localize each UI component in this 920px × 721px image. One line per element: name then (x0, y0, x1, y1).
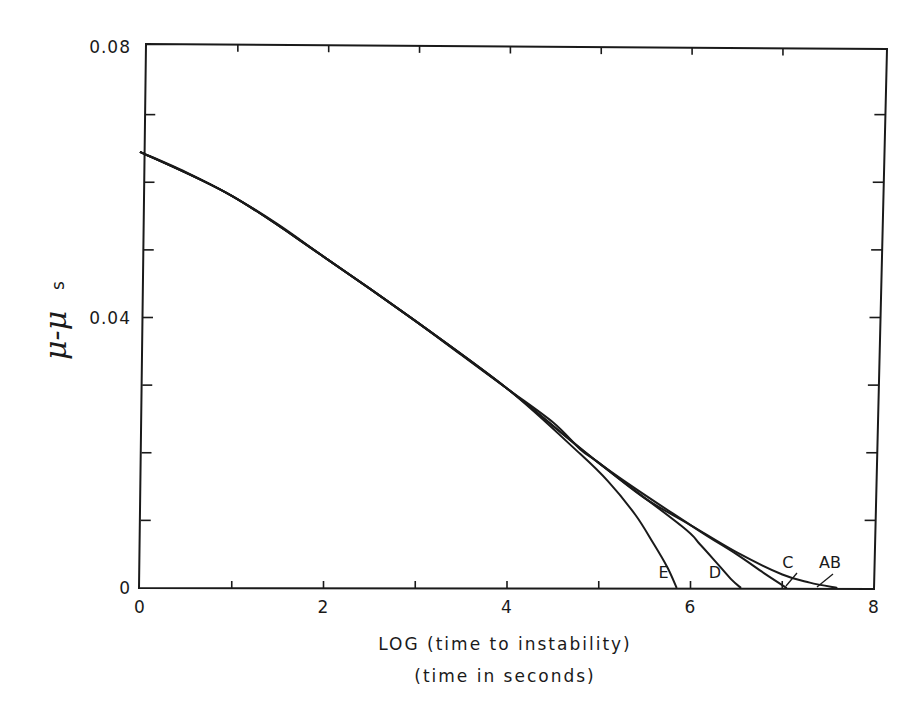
axis-ticks (141, 45, 886, 588)
x-axis-title: LOG (time to instability) (378, 634, 632, 654)
x-tick-label: 2 (318, 597, 330, 617)
curve-label-ab: AB (819, 553, 841, 572)
y-axis-title-main: μ-μ (38, 311, 73, 360)
y-tick-label: 0.04 (89, 308, 131, 328)
data-curves (140, 152, 837, 588)
plot-frame (139, 44, 887, 589)
curve-label-d: D (709, 563, 721, 582)
y-axis-title-subscript: s (48, 281, 68, 290)
x-tick-label: 4 (501, 597, 513, 617)
x-tick-label: 6 (685, 597, 697, 617)
axis-tick-labels: 0246800.040.08 (89, 37, 880, 617)
curve-d (140, 152, 741, 588)
curve-e (140, 152, 677, 588)
y-tick-label: 0 (119, 578, 131, 598)
curve-ab (140, 152, 837, 588)
y-axis-title: μ-μ s (38, 281, 73, 360)
curve-c (140, 152, 787, 588)
curve-label-c: C (782, 553, 793, 572)
curve-labels: EDCAB (658, 553, 840, 582)
x-tick-label: 8 (868, 597, 880, 617)
x-tick-label: 0 (134, 597, 146, 617)
x-axis-subtitle: (time in seconds) (414, 666, 595, 686)
curve-label-e: E (658, 563, 668, 582)
chart-svg: 0246800.040.08 EDCAB μ-μ s LOG (time to … (0, 0, 920, 721)
y-tick-label: 0.08 (89, 37, 131, 57)
